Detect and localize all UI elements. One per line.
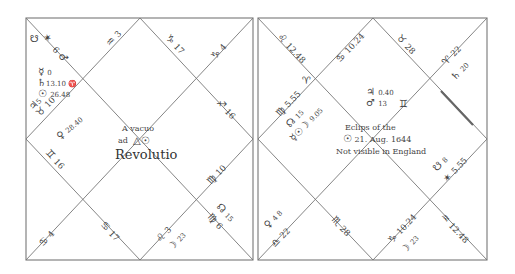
sun-glyph: ☉ 26.48: [38, 88, 70, 99]
gemini-glyph: ♊: [399, 98, 408, 109]
cusp-scorpio-28: ♏ 28: [330, 214, 354, 238]
cusp-leo-12-48: ♌ 12.48: [276, 31, 309, 65]
cusp-libra-22: ♎ 22: [268, 225, 292, 249]
saturn-glyph: ♄13.10 ♈: [37, 77, 77, 88]
mars-glyph: ♂ 13: [366, 97, 387, 108]
south-node-glyph: ☋: [30, 33, 39, 44]
left-chart: ♒ 3 ♑ 17 ♑ 4 ♐ 16 ♍ 10 ♍ 6 ♌ 3 ♋ 17 ♋ 4 …: [26, 18, 253, 260]
cusp-aquarius-3: ♒ 3: [103, 28, 123, 48]
caption-revolutio: Revolutio: [115, 147, 178, 162]
saturn-glyph: ♄ 20: [448, 59, 470, 82]
emphasized-line-segment: [441, 91, 473, 125]
sextile-glyph: ✶: [41, 31, 55, 45]
cusp-cancer-17: ♋ 17: [99, 219, 123, 243]
venus-glyph: ♀ 4 8: [261, 207, 284, 230]
jupiter-glyph: ♃ 0.40: [366, 86, 394, 97]
caption-eclips: Eclips of the: [345, 123, 396, 132]
cusp-sagittarius-16: ♐ 16: [215, 97, 239, 121]
aries-glyph: ♈: [302, 75, 311, 86]
horoscope-charts: ♒ 3 ♑ 17 ♑ 4 ♐ 16 ♍ 10 ♍ 6 ♌ 3 ♋ 17 ♋ 4 …: [0, 0, 515, 274]
venus-glyph: ♀ 28.40: [54, 113, 84, 141]
caption-a-vacuo: A vacuo: [121, 124, 154, 133]
cusp-cancer-10-24: ♋ 10.24: [333, 30, 366, 64]
cusp-capricorn-17: ♑ 17: [164, 32, 188, 56]
cusp-virgo-10: ♍ 10: [204, 162, 228, 186]
cusp-aquarius-12-48: ♒ 12.48: [439, 211, 472, 245]
right-chart: ♌ 12.48 ♋ 10.24 ♉ 28 ♈ 22 ♍ 5.55 ♒ 12.48…: [258, 18, 487, 260]
opposition-sun-glyph: △☉: [133, 135, 150, 146]
caption-ad: ad: [118, 136, 128, 145]
caption-date: ☉ 21. Aug. 1644: [343, 133, 411, 144]
caption-not-visible: Not visible in England: [336, 147, 426, 156]
cusp-gemini-16: ♊ 16: [44, 147, 68, 171]
mercury-glyph: ☿ 0: [38, 66, 52, 77]
cusp-capricorn-4: ♑ 4: [208, 41, 228, 61]
